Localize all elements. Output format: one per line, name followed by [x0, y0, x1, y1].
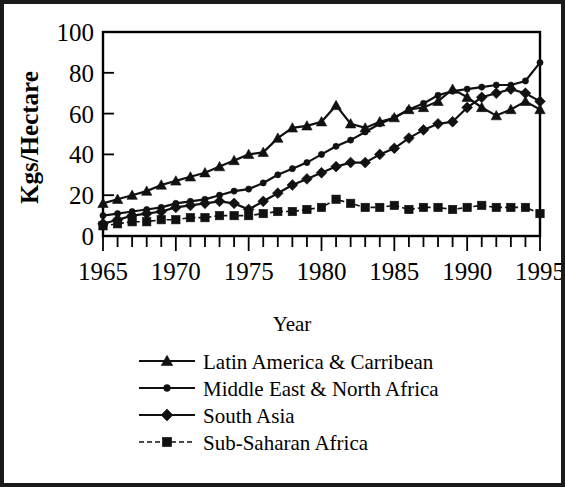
- series-1: [98, 84, 545, 208]
- marker-diamond: [214, 196, 225, 207]
- x-tick-label: 1990: [442, 258, 492, 285]
- marker-circle: [537, 60, 543, 66]
- marker-circle: [493, 82, 499, 88]
- series-path: [103, 89, 540, 203]
- data-series-layer: [98, 60, 546, 231]
- marker-circle: [406, 106, 412, 112]
- marker-square: [288, 207, 296, 215]
- marker-circle: [362, 129, 368, 135]
- marker-square: [113, 220, 121, 228]
- legend-label: Middle East & North Africa: [203, 377, 439, 401]
- marker-circle: [304, 159, 310, 165]
- marker-circle: [450, 88, 456, 94]
- marker-circle: [100, 213, 106, 219]
- x-tick-label: 1995: [515, 258, 561, 285]
- y-tick-label: 0: [82, 223, 95, 250]
- marker-square: [390, 201, 398, 209]
- marker-square: [448, 205, 456, 213]
- marker-circle: [435, 92, 441, 98]
- marker-circle: [164, 385, 171, 392]
- legend-label: South Asia: [203, 404, 295, 428]
- legend-label: Sub-Saharan Africa: [203, 431, 369, 455]
- y-tick-label: 80: [69, 60, 94, 87]
- marker-circle: [348, 137, 354, 143]
- x-tick-label: 1985: [369, 258, 419, 285]
- marker-square: [405, 205, 413, 213]
- x-tick-label: 1970: [151, 258, 201, 285]
- marker-circle: [231, 188, 237, 194]
- fertilizer-use-line-chart: 020406080100 196519701975198019851990199…: [4, 4, 561, 483]
- marker-circle: [420, 100, 426, 106]
- marker-square: [186, 213, 194, 221]
- marker-triangle: [506, 104, 516, 113]
- legend-entry-2: Middle East & North Africa: [139, 377, 439, 401]
- marker-diamond: [331, 161, 342, 172]
- x-axis-title: Year: [273, 312, 312, 336]
- marker-diamond: [316, 167, 327, 178]
- marker-square: [143, 218, 151, 226]
- marker-diamond: [374, 149, 385, 160]
- y-axis-title: Kgs/Hectare: [16, 71, 43, 204]
- marker-circle: [318, 151, 324, 157]
- marker-diamond: [161, 409, 173, 421]
- marker-square: [419, 203, 427, 211]
- marker-square: [478, 201, 486, 209]
- x-tick-label: 1965: [78, 258, 128, 285]
- marker-square: [361, 203, 369, 211]
- legend-label: Latin America & Carribean: [203, 350, 434, 374]
- marker-circle: [333, 143, 339, 149]
- marker-circle: [377, 121, 383, 127]
- marker-square: [536, 209, 544, 217]
- marker-square: [303, 205, 311, 213]
- marker-diamond: [302, 173, 313, 184]
- marker-circle: [479, 84, 485, 90]
- marker-circle: [289, 166, 295, 172]
- marker-diamond: [287, 180, 298, 191]
- marker-diamond: [360, 157, 371, 168]
- marker-square: [317, 203, 325, 211]
- legend-entry-3: South Asia: [139, 404, 295, 428]
- x-axis: 1965197019751980198519901995: [78, 236, 561, 285]
- chart-figure: 020406080100 196519701975198019851990199…: [0, 0, 565, 487]
- y-tick-label: 100: [57, 19, 95, 46]
- marker-square: [332, 195, 340, 203]
- legend-entry-1: Latin America & Carribean: [139, 350, 434, 374]
- legend-entry-4: Sub-Saharan Africa: [139, 431, 369, 455]
- marker-diamond: [272, 188, 283, 199]
- marker-diamond: [229, 198, 240, 209]
- x-tick-label: 1980: [297, 258, 347, 285]
- marker-circle: [464, 86, 470, 92]
- y-tick-label: 40: [69, 141, 94, 168]
- marker-square: [128, 218, 136, 226]
- x-tick-label: 1975: [224, 258, 274, 285]
- marker-square: [521, 203, 529, 211]
- marker-diamond: [491, 88, 502, 99]
- marker-square: [274, 207, 282, 215]
- marker-diamond: [535, 96, 546, 107]
- marker-square: [434, 203, 442, 211]
- marker-square: [230, 211, 238, 219]
- marker-square: [492, 203, 500, 211]
- marker-square: [259, 209, 267, 217]
- series-2: [100, 60, 543, 219]
- marker-circle: [260, 180, 266, 186]
- marker-diamond: [520, 88, 531, 99]
- y-tick-label: 20: [69, 182, 94, 209]
- marker-square: [99, 222, 107, 230]
- marker-square: [507, 203, 515, 211]
- marker-square: [201, 213, 209, 221]
- marker-square: [157, 215, 165, 223]
- marker-diamond: [258, 196, 269, 207]
- marker-square: [162, 437, 171, 446]
- y-tick-label: 60: [69, 101, 94, 128]
- marker-square: [346, 199, 354, 207]
- chart-legend: Latin America & CarribeanMiddle East & N…: [139, 350, 439, 455]
- marker-square: [172, 215, 180, 223]
- marker-circle: [522, 78, 528, 84]
- marker-diamond: [345, 157, 356, 168]
- marker-triangle: [331, 100, 341, 109]
- marker-diamond: [433, 118, 444, 129]
- marker-circle: [246, 186, 252, 192]
- marker-circle: [275, 172, 281, 178]
- marker-circle: [391, 115, 397, 121]
